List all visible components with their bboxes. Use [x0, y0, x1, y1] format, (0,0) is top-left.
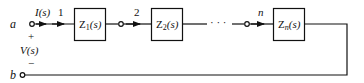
impedance-block-zn: Zn(s) — [274, 9, 305, 41]
voltage-minus: − — [28, 57, 34, 69]
node-2-terminal-icon — [119, 22, 124, 27]
terminal-b: b — [10, 68, 25, 82]
terminal-b-label: b — [10, 68, 16, 82]
ellipsis: · · · — [210, 16, 227, 28]
svg-text:Z1(s): Z1(s) — [79, 18, 102, 32]
terminal-b-node-icon — [20, 73, 25, 78]
current-label: I(s) — [34, 6, 51, 19]
svg-text:Zn(s): Zn(s) — [278, 18, 301, 32]
svg-text:Z2(s): Z2(s) — [156, 18, 179, 32]
node-1-label: 1 — [58, 6, 64, 18]
voltage-label: V(s) — [20, 44, 39, 57]
impedance-block-z1: Z1(s) — [75, 9, 106, 41]
node-n-terminal-icon — [245, 22, 250, 27]
z1-arg: (s) — [90, 18, 102, 31]
terminal-a: a — [10, 17, 34, 31]
zn-arg: (s) — [289, 18, 301, 31]
series-impedance-diagram: a I(s) 1 Z1(s) 2 Z2(s) · · · — [0, 0, 364, 83]
z2-arg: (s) — [167, 18, 179, 31]
impedance-block-z2: Z2(s) — [152, 9, 183, 41]
node-2-label: 2 — [134, 6, 140, 18]
voltage-plus: + — [28, 30, 34, 42]
terminal-a-label: a — [10, 17, 16, 31]
terminal-a-node-icon — [30, 22, 35, 27]
node-n-label: n — [258, 6, 264, 18]
wire-z1-to-z2 — [106, 22, 152, 27]
